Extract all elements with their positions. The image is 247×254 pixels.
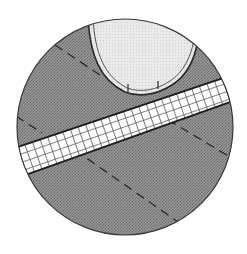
detail-illustration bbox=[0, 0, 247, 254]
detail-circle-diagram bbox=[0, 0, 247, 254]
